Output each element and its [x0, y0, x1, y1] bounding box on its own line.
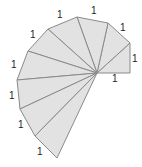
- unit-length-label: 1: [112, 73, 118, 84]
- unit-length-label: 1: [57, 9, 63, 20]
- unit-length-label: 1: [30, 29, 36, 40]
- unit-length-label: 1: [132, 53, 138, 64]
- unit-length-label: 1: [37, 146, 43, 157]
- unit-length-label: 1: [120, 22, 126, 33]
- unit-length-label: 1: [18, 119, 24, 130]
- spiral-of-theodorus: 1111111111: [0, 0, 142, 167]
- unit-length-label: 1: [11, 59, 17, 70]
- unit-length-label: 1: [9, 90, 15, 101]
- unit-length-label: 1: [91, 5, 97, 16]
